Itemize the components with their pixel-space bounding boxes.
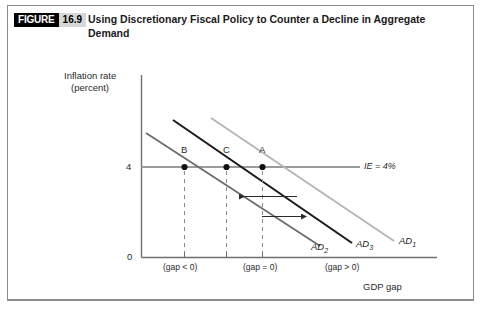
figure-title: Using Discretionary Fiscal Policy to Cou…: [88, 12, 463, 40]
figure-tag: FIGURE 16.9: [14, 13, 86, 27]
figure-bottom-divider: [7, 300, 474, 301]
figure-tag-number: 16.9: [59, 13, 86, 27]
figure-header: FIGURE 16.9 Using Discretionary Fiscal P…: [14, 12, 464, 54]
figure-container: FIGURE 16.9 Using Discretionary Fiscal P…: [0, 0, 483, 309]
figure-tag-word: FIGURE: [14, 13, 59, 27]
